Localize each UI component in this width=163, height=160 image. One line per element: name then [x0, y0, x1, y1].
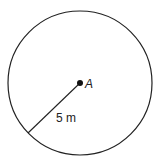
radius-line [28, 83, 80, 133]
circle-diagram: A 5 m [0, 0, 163, 160]
center-label: A [84, 77, 93, 91]
radius-label: 5 m [56, 111, 76, 125]
center-point [77, 80, 83, 86]
